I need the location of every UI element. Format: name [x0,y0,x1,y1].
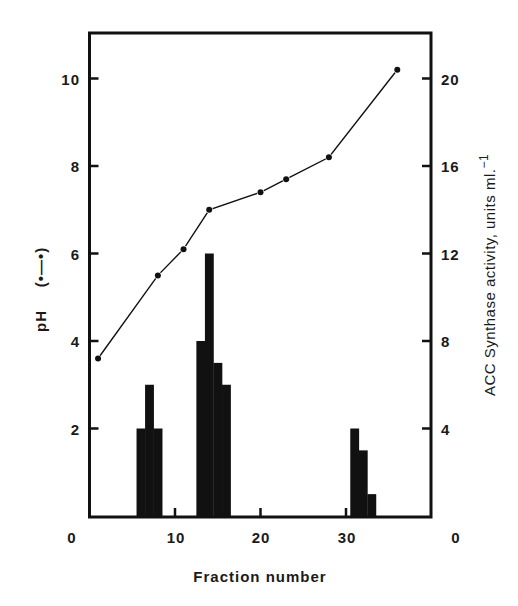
x-tick-label: 10 [167,529,186,546]
ph-data-point [326,154,332,160]
ph-data-point [394,67,400,73]
activity-bars [137,254,377,517]
ph-data-point [181,246,187,252]
x-tick-label: 0 [67,529,76,546]
activity-bar [205,254,214,517]
y-right-tick-label: 8 [441,333,450,350]
activity-bar [222,385,231,516]
x-tick-label: 30 [338,529,357,546]
right-axis-title: ACC Synthase activity, units ml.−1 [477,154,498,396]
ph-data-point [206,207,212,213]
activity-bar [350,429,359,517]
ph-line-series [94,66,400,362]
ph-data-point [258,189,264,195]
x-axis-title: Fraction number [193,568,326,585]
left-axis-title: pH (•—•) [32,247,49,332]
ph-data-point [155,272,161,278]
activity-bar [145,385,154,516]
y-left-tick-label: 2 [71,421,80,438]
y-right-tick-label: 4 [441,421,450,438]
ph-line [98,70,397,359]
ph-data-point [95,356,101,362]
ph-data-point [283,176,289,182]
y-right-tick-label: 16 [441,158,460,175]
x-tick-label: 20 [252,529,271,546]
activity-bar [359,450,368,516]
activity-bar [137,429,146,517]
y-left-tick-label: 6 [71,246,80,263]
x-tick-label: 0 [451,529,460,546]
y-left-tick-label: 10 [61,71,80,88]
right-axis-superscript: −1 [477,154,491,169]
y-left-tick-label: 8 [71,158,80,175]
y-left-tick-label: 4 [71,333,80,350]
tick-labels: 0102030024681048121620 [61,71,460,547]
activity-bar [367,494,376,516]
left-axis-legend-icon: (•—•) [32,247,49,288]
svg-text:ACC Synthase activity, units m: ACC Synthase activity, units ml.−1 [477,154,498,396]
y-right-tick-label: 12 [441,246,460,263]
y-right-tick-label: 20 [441,71,460,88]
activity-bar [213,363,222,516]
chart: 0102030024681048121620 Fraction number p… [0,0,518,606]
activity-bar [154,429,163,517]
activity-bar [196,341,205,516]
left-axis-label: pH [32,310,49,332]
right-axis-label: ACC Synthase activity, units ml. [481,169,498,396]
